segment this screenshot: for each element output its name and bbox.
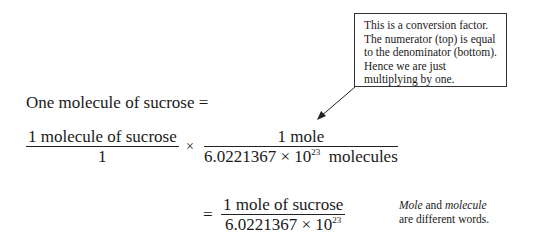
fraction-result: 1 mole of sucrose 6.0221367 × 1023 — [221, 195, 345, 234]
fraction-denominator: 6.0221367 × 1023 molecules — [204, 147, 398, 166]
fraction-denominator: 6.0221367 × 1023 — [221, 215, 345, 234]
lead-statement: One molecule of sucrose = — [26, 93, 208, 113]
times-operator: × — [186, 139, 194, 155]
fraction-numerator: 1 molecule of sucrose — [26, 127, 179, 146]
fraction-denominator: 1 — [26, 147, 179, 166]
side-note: Mole and molecule are different words. — [399, 198, 489, 226]
fraction-numerator: 1 mole of sucrose — [221, 195, 345, 214]
fraction-conversion: 1 mole 6.0221367 × 1023 molecules — [204, 127, 398, 166]
fraction-molecule: 1 molecule of sucrose 1 — [26, 127, 179, 166]
equals-operator: = — [203, 205, 213, 225]
fraction-numerator: 1 mole — [204, 127, 398, 146]
